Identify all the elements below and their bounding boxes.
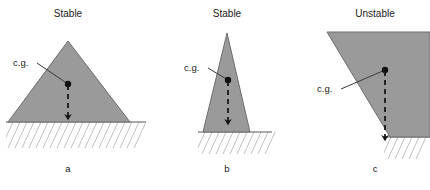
panel-b-cg-point <box>225 77 231 83</box>
panel-a-cg-label: c.g. <box>13 57 28 68</box>
panel-a-cg-point <box>65 81 71 87</box>
figure-canvas: Stable <box>0 0 430 190</box>
panel-c-cg-point <box>382 67 388 73</box>
panel-b-cg-label: c.g. <box>184 62 199 73</box>
panel-c-cg-label: c.g. <box>317 83 332 94</box>
panel-c-caption-label: c <box>373 163 378 174</box>
stability-diagram-figure: Stable <box>0 0 430 190</box>
panel-a-title: Stable <box>54 8 83 19</box>
panel-b-title: Stable <box>213 8 242 19</box>
panel-c-title: Unstable <box>355 8 395 19</box>
panel-b-caption-label: b <box>224 163 229 174</box>
panel-a-caption-label: a <box>65 163 71 174</box>
